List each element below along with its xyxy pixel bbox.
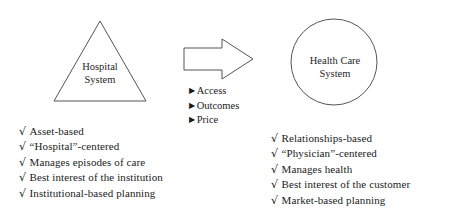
- triangle-node-label: Hospital System: [62, 60, 138, 86]
- triangle-bullet-icon: ▶: [189, 113, 195, 127]
- attribute-label: Manages health: [282, 162, 353, 176]
- right-attributes-list: √ Relationships-based √ “Physician”-cent…: [271, 131, 410, 208]
- checkmark-icon: √: [271, 194, 278, 208]
- driver-label: Outcomes: [197, 99, 240, 113]
- checkmark-icon: √: [271, 132, 278, 146]
- list-item: ▶ Access: [189, 84, 239, 99]
- list-item: √ Institutional-based planning: [19, 186, 163, 201]
- list-item: √ “Hospital”-centered: [19, 139, 163, 154]
- list-item: ▶ Outcomes: [189, 99, 239, 114]
- circle-label-line-2: System: [292, 67, 378, 80]
- checkmark-icon: √: [19, 187, 26, 201]
- driver-label: Access: [197, 84, 227, 98]
- arrow-drivers-list: ▶ Access ▶ Outcomes ▶ Price: [189, 84, 239, 128]
- checkmark-icon: √: [19, 125, 26, 139]
- checkmark-icon: √: [271, 147, 278, 161]
- checkmark-icon: √: [19, 156, 26, 170]
- checkmark-icon: √: [19, 171, 26, 185]
- checkmark-icon: √: [19, 140, 26, 154]
- attribute-label: Relationships-based: [282, 131, 373, 145]
- list-item: √ Best interest of the customer: [271, 177, 410, 192]
- checkmark-icon: √: [271, 178, 278, 192]
- list-item: √ Market-based planning: [271, 193, 410, 208]
- checkmark-icon: √: [271, 163, 278, 177]
- circle-label-line-1: Health Care: [292, 54, 378, 67]
- attribute-label: Manages episodes of care: [30, 155, 146, 169]
- list-item: √ Best interest of the institution: [19, 170, 163, 185]
- list-item: ▶ Price: [189, 113, 239, 128]
- attribute-label: Asset-based: [30, 124, 84, 138]
- block-arrow-shape: [184, 39, 253, 79]
- triangle-label-line-2: System: [62, 73, 138, 86]
- triangle-label-line-1: Hospital: [62, 60, 138, 73]
- attribute-label: Market-based planning: [282, 193, 386, 207]
- driver-label: Price: [197, 113, 219, 127]
- list-item: √ Relationships-based: [271, 131, 410, 146]
- left-attributes-list: √ Asset-based √ “Hospital”-centered √ Ma…: [19, 124, 163, 201]
- attribute-label: Best interest of the customer: [282, 177, 411, 191]
- list-item: √ “Physician”-centered: [271, 146, 410, 161]
- triangle-bullet-icon: ▶: [189, 99, 195, 113]
- list-item: √ Asset-based: [19, 124, 163, 139]
- circle-node-label: Health Care System: [292, 54, 378, 80]
- attribute-label: “Hospital”-centered: [30, 139, 120, 153]
- list-item: √ Manages episodes of care: [19, 155, 163, 170]
- attribute-label: Institutional-based planning: [30, 186, 156, 200]
- triangle-bullet-icon: ▶: [189, 84, 195, 98]
- list-item: √ Manages health: [271, 162, 410, 177]
- attribute-label: Best interest of the institution: [30, 170, 163, 184]
- diagram-canvas: Hospital System Health Care System ▶ Acc…: [0, 0, 455, 220]
- attribute-label: “Physician”-centered: [282, 146, 377, 160]
